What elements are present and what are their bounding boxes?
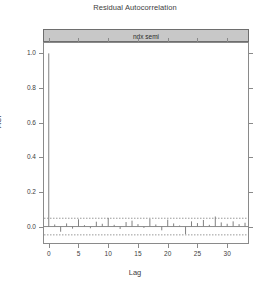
y-tick-left (39, 157, 43, 158)
y-tick-right (249, 227, 253, 228)
x-tick-top (78, 38, 79, 42)
y-tick-label: 0.6 (1, 119, 36, 126)
y-tick-right (249, 88, 253, 89)
x-tick-top (108, 38, 109, 42)
x-tick-bottom (78, 244, 79, 248)
x-tick-top (197, 38, 198, 42)
y-tick-right (249, 192, 253, 193)
page-title: Residual Autocorrelation (0, 3, 270, 12)
x-tick-bottom (49, 244, 50, 248)
x-tick-label: 30 (207, 250, 247, 257)
y-tick-label: 0.4 (1, 153, 36, 160)
y-tick-label: 1.0 (1, 49, 36, 56)
x-tick-bottom (168, 244, 169, 248)
y-tick-left (39, 53, 43, 54)
y-tick-left (39, 123, 43, 124)
plot-area (44, 43, 248, 243)
x-tick-bottom (197, 244, 198, 248)
panel-strip-header: ndx semi (43, 29, 249, 42)
y-tick-label: 0.0 (1, 223, 36, 230)
y-tick-right (249, 53, 253, 54)
x-tick-bottom (138, 244, 139, 248)
y-axis-title: ACF (0, 113, 3, 128)
plot-panel (43, 42, 249, 244)
acf-spikes-graphic (44, 43, 248, 243)
x-tick-top (49, 38, 50, 42)
y-tick-right (249, 157, 253, 158)
y-tick-label: 0.2 (1, 188, 36, 195)
y-tick-left (39, 192, 43, 193)
y-tick-left (39, 88, 43, 89)
x-tick-top (168, 38, 169, 42)
x-tick-top (227, 38, 228, 42)
y-tick-left (39, 227, 43, 228)
acf-chart-root: Residual Autocorrelation ndx semi 051015… (0, 0, 270, 297)
x-axis-title: Lag (0, 268, 270, 277)
y-tick-right (249, 123, 253, 124)
y-tick-label: 0.8 (1, 84, 36, 91)
x-tick-top (138, 38, 139, 42)
x-tick-bottom (108, 244, 109, 248)
x-tick-bottom (227, 244, 228, 248)
